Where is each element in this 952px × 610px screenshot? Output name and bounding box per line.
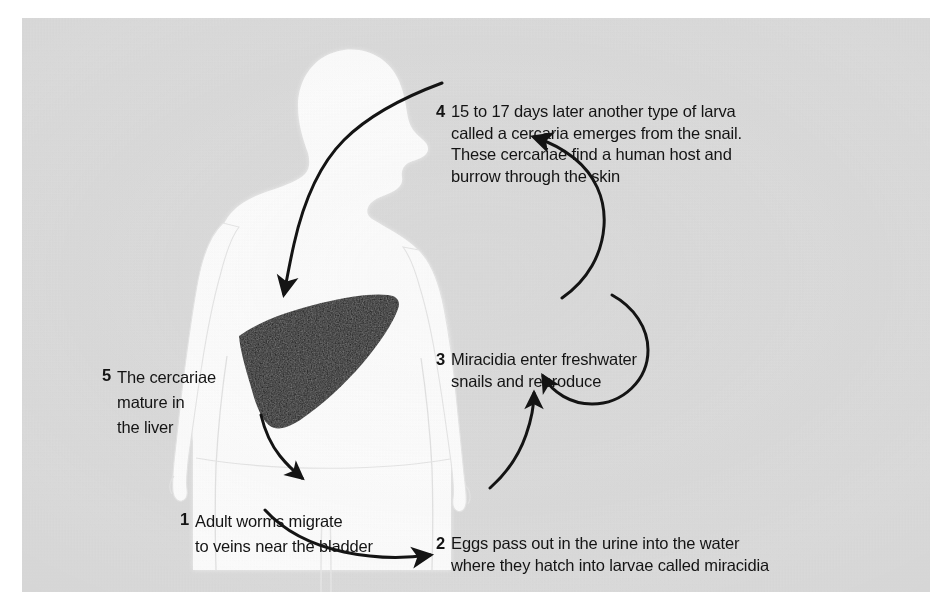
step-caption-3: 3 Miracidia enter freshwater snails and … xyxy=(436,306,637,435)
step-number-1: 1 xyxy=(180,509,189,531)
diagram-panel: 4 15 to 17 days later another type of la… xyxy=(22,18,930,592)
step-text-5: The cercariae mature in the liver xyxy=(117,365,216,440)
step-text-4: 15 to 17 days later another type of larv… xyxy=(451,101,742,187)
step-number-2: 2 xyxy=(436,533,445,555)
step-caption-4: 4 15 to 17 days later another type of la… xyxy=(436,58,742,230)
step-caption-1: 1 Adult worms migrate to veins near the … xyxy=(180,466,373,592)
step-number-3: 3 xyxy=(436,349,445,371)
step-text-2: Eggs pass out in the urine into the wate… xyxy=(451,533,769,576)
step-number-5: 5 xyxy=(102,365,111,387)
step-text-1: Adult worms migrate to veins near the bl… xyxy=(195,509,373,559)
step-number-4: 4 xyxy=(436,101,445,123)
figure-root: 4 15 to 17 days later another type of la… xyxy=(0,0,952,610)
step-text-3: Miracidia enter freshwater snails and re… xyxy=(451,349,637,392)
step-caption-5: 5 The cercariae mature in the liver xyxy=(102,322,216,483)
step-caption-2: 2 Eggs pass out in the urine into the wa… xyxy=(436,490,769,592)
